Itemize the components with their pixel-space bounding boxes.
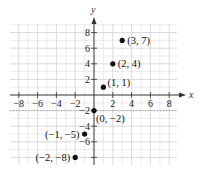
y-tick-label: 6	[85, 43, 90, 54]
x-axis-arrow-icon	[179, 93, 186, 98]
data-point	[101, 85, 106, 90]
point-label: (−1, −5)	[45, 129, 80, 141]
point-label: (−2, −8)	[36, 152, 71, 164]
x-axis-label: x	[188, 89, 194, 100]
y-tick-label: −4	[79, 121, 90, 132]
data-point	[82, 131, 87, 136]
data-point	[110, 61, 115, 66]
x-tick-label: 4	[129, 98, 134, 109]
point-label: (1, 1)	[107, 77, 130, 89]
data-point	[120, 38, 125, 43]
x-tick-label: 2	[110, 98, 115, 109]
point-label: (2, 4)	[118, 58, 141, 70]
point-label: (3, 7)	[127, 35, 150, 47]
y-tick-label: −6	[79, 136, 90, 147]
y-axis-arrow-icon	[92, 17, 97, 24]
y-tick-label: 8	[85, 27, 90, 38]
coordinate-plot: xy −8−6−4−22468−6−4−22468 (−2, −8)(−1, −…	[0, 0, 199, 176]
y-tick-label: 4	[85, 58, 90, 69]
x-tick-label: 8	[167, 98, 172, 109]
y-axis-label: y	[90, 4, 96, 15]
x-tick-label: 6	[148, 98, 153, 109]
y-tick-label: 2	[85, 74, 90, 85]
x-tick-label: −6	[32, 98, 43, 109]
x-tick-label: −4	[51, 98, 62, 109]
point-label: (0, −2)	[96, 113, 125, 125]
x-tick-label: −8	[13, 98, 24, 109]
y-tick-label: −2	[79, 105, 90, 116]
data-point	[73, 155, 78, 160]
